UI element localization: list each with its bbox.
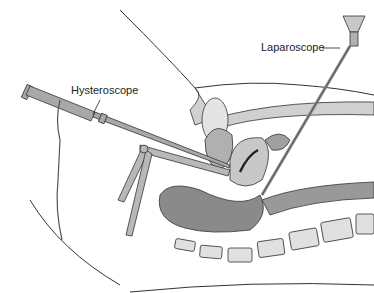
hysteroscope-label: Hysteroscope (71, 84, 138, 96)
rectum (159, 186, 263, 232)
ovary (265, 134, 290, 150)
laparoscope-label: Laparoscope (261, 41, 325, 53)
hysteroscope-leader (93, 100, 100, 114)
posterior-wall (262, 182, 374, 215)
uterus (230, 138, 269, 186)
